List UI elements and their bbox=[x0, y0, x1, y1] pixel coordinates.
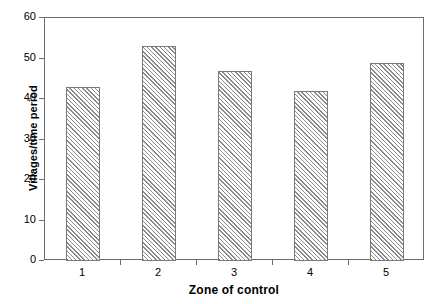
bar bbox=[66, 87, 100, 261]
bar bbox=[370, 63, 404, 261]
y-tick-label: 30 bbox=[24, 132, 36, 145]
y-tick-mark bbox=[39, 139, 44, 140]
y-tick-mark bbox=[39, 260, 44, 261]
bar bbox=[218, 71, 252, 261]
x-tick-mark bbox=[196, 260, 197, 265]
y-tick-label: 50 bbox=[24, 51, 36, 64]
y-axis-tick: 20 bbox=[0, 179, 44, 180]
y-axis-tick: 60 bbox=[0, 17, 44, 18]
x-tick-label: 5 bbox=[366, 265, 406, 279]
y-tick-mark bbox=[39, 98, 44, 99]
y-axis-tick: 10 bbox=[0, 220, 44, 221]
x-tick-mark bbox=[272, 260, 273, 265]
y-tick-label: 40 bbox=[24, 91, 36, 104]
y-axis-tick: 30 bbox=[0, 139, 44, 140]
y-tick-mark bbox=[39, 17, 44, 18]
y-tick-mark bbox=[39, 220, 44, 221]
x-tick-label: 1 bbox=[62, 265, 102, 279]
bar bbox=[142, 46, 176, 261]
y-tick-label: 20 bbox=[24, 172, 36, 185]
x-tick-mark bbox=[348, 260, 349, 265]
x-tick-mark bbox=[120, 260, 121, 265]
y-axis-tick: 40 bbox=[0, 98, 44, 99]
x-axis-title: Zone of control bbox=[44, 283, 424, 297]
y-tick-label: 10 bbox=[24, 213, 36, 226]
x-tick-label: 3 bbox=[214, 265, 254, 279]
y-tick-label: 0 bbox=[30, 253, 36, 266]
y-axis-tick: 50 bbox=[0, 58, 44, 59]
y-tick-mark bbox=[39, 179, 44, 180]
y-tick-label: 60 bbox=[24, 10, 36, 23]
y-tick-mark bbox=[39, 58, 44, 59]
x-tick-label: 4 bbox=[290, 265, 330, 279]
bar-chart: Villages/time period 0102030405060 12345… bbox=[0, 0, 444, 304]
plot-area bbox=[44, 17, 424, 260]
bar bbox=[294, 91, 328, 261]
x-tick-label: 2 bbox=[138, 265, 178, 279]
y-axis-tick: 0 bbox=[0, 260, 44, 261]
